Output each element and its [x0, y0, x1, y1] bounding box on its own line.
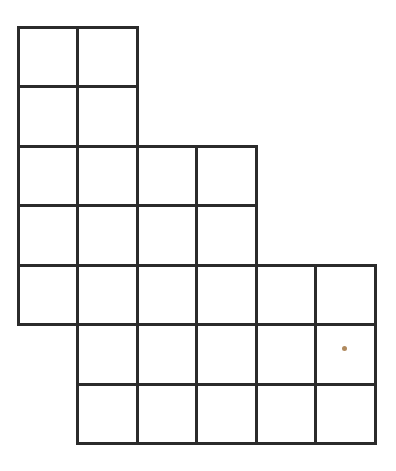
grid-cell — [316, 384, 376, 444]
grid-cell — [137, 146, 197, 206]
grid-cell — [137, 206, 197, 266]
staircase-grid-figure — [0, 0, 396, 471]
grid-cell — [78, 206, 138, 266]
grid-cell — [78, 146, 138, 206]
grid-cell — [316, 265, 376, 325]
grid-cell — [256, 384, 316, 444]
grid-cell — [78, 27, 138, 87]
grid-cell — [137, 265, 197, 325]
grid-cell — [18, 87, 78, 147]
grid-cell — [137, 384, 197, 444]
grid-cell — [197, 206, 257, 266]
grid-cell — [18, 265, 78, 325]
grid-cell — [18, 146, 78, 206]
grid-cell — [18, 27, 78, 87]
grid-cell — [197, 325, 257, 385]
marker-dot — [342, 346, 347, 351]
grid-cell — [316, 325, 376, 385]
grid-cell — [137, 325, 197, 385]
grid-cell — [197, 384, 257, 444]
figure-canvas — [0, 0, 396, 471]
grid-cell — [78, 384, 138, 444]
grid-cell — [78, 325, 138, 385]
grid-cell — [256, 265, 316, 325]
grid-cell — [256, 325, 316, 385]
grid-cell — [18, 206, 78, 266]
grid-cell — [78, 265, 138, 325]
grid-cell — [197, 265, 257, 325]
grid-cell — [197, 146, 257, 206]
grid-cell — [78, 87, 138, 147]
